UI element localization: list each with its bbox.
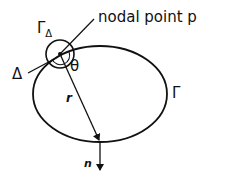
label-delta: Δ [12, 65, 23, 83]
label-gamma-delta: ΓΔ [37, 19, 52, 39]
delta-leader [28, 57, 58, 73]
boundary-diagram: nodal point p ΓΔ Δ θ Γ r n [0, 0, 236, 177]
label-r: r [66, 91, 73, 105]
label-nodal-point-p: nodal point p [98, 8, 197, 26]
label-gamma: Γ [172, 84, 181, 102]
label-theta: θ [70, 57, 79, 75]
label-n: n [84, 157, 92, 170]
